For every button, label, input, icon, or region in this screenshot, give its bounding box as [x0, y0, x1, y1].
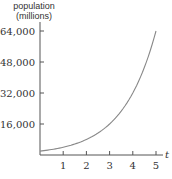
x-tick-label: 3: [106, 160, 112, 171]
y-axis-label-line1: population: [13, 1, 55, 11]
x-ticks: 12345: [60, 151, 159, 171]
y-tick-label: 16,000: [0, 119, 35, 130]
y-tick-label: 32,000: [0, 88, 35, 99]
y-tick-label: 64,000: [0, 26, 35, 37]
x-tick-label: 2: [83, 160, 89, 171]
x-tick-label: 4: [130, 160, 136, 171]
y-ticks: 16,00032,00048,00064,000: [0, 26, 44, 130]
x-axis-label: t: [165, 149, 170, 160]
y-tick-label: 48,000: [0, 57, 35, 68]
x-tick-label: 5: [153, 160, 159, 171]
y-axis-label-line2: (millions): [16, 11, 52, 21]
population-curve: [40, 31, 156, 151]
x-tick-label: 1: [60, 160, 66, 171]
population-chart: population (millions) 16,00032,00048,000…: [0, 0, 172, 179]
